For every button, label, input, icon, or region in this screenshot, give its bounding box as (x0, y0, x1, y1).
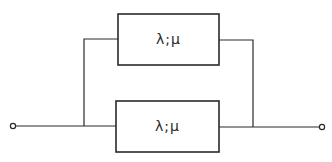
right-branch-wire (219, 40, 253, 127)
bottom-component-label: λ;μ (116, 118, 219, 134)
left-branch-wire (84, 39, 118, 126)
output-terminal-icon (319, 124, 324, 129)
parallel-system-diagram (0, 0, 332, 162)
input-terminal-icon (10, 123, 15, 128)
top-component-label: λ;μ (118, 31, 219, 47)
